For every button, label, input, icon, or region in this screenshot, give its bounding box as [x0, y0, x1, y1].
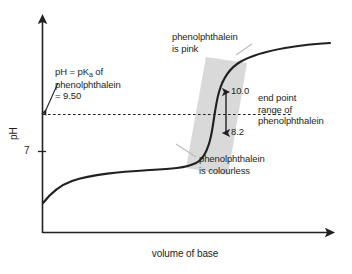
pka-annotation-line3: = 9.50: [55, 90, 81, 101]
pka-annotation-line1-head: pH = pK: [55, 66, 89, 77]
end-point-range-annotation: end point range of phenolphthalein: [258, 92, 350, 127]
titration-curve-figure: pH 7 volume of base pH = pKa ofphenolpht…: [0, 0, 352, 274]
pka-annotation: pH = pKa ofphenolphthalein= 9.50: [55, 66, 147, 102]
range-lower-value-label: 8.2: [231, 126, 244, 138]
y-axis-title: pH: [8, 122, 20, 146]
y-axis-tick-label-7: 7: [24, 145, 29, 157]
indicator-pink-annotation: phenolphthalein is pink: [172, 31, 267, 54]
pka-annotation-subscript: a: [89, 71, 93, 78]
range-upper-value-label: 10.0: [231, 85, 249, 97]
x-axis-title: volume of base: [120, 248, 250, 260]
pka-annotation-line1-tail: of: [93, 66, 103, 77]
indicator-colourless-annotation: phenolphthalein is colourless: [199, 153, 299, 176]
pka-annotation-line2: phenolphthalein: [55, 79, 121, 90]
